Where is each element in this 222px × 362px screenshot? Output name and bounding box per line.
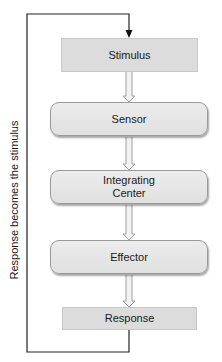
- response-label: Response: [105, 312, 155, 325]
- arrow-sensor-to-integrating-center: [123, 137, 135, 170]
- effector-node: Effector: [50, 240, 208, 274]
- sensor-node: Sensor: [50, 102, 208, 136]
- arrow-stimulus-to-sensor: [123, 72, 135, 102]
- feedback-arrowhead-icon: [126, 30, 133, 38]
- arrow-integrating-center-to-effector: [123, 205, 135, 240]
- response-node: Response: [62, 307, 197, 330]
- integrating-center-node: Integrating Center: [50, 170, 208, 204]
- effector-label: Effector: [110, 251, 148, 264]
- arrow-effector-to-response: [123, 275, 135, 307]
- sensor-label: Sensor: [112, 113, 147, 126]
- feedback-label: Response becomes the stimulus: [7, 100, 21, 300]
- stimulus-node: Stimulus: [61, 38, 198, 72]
- stimulus-label: Stimulus: [108, 49, 150, 62]
- integrating-center-label: Integrating Center: [103, 174, 155, 200]
- negative-feedback-diagram: Stimulus Sensor Integrating Center Effec…: [0, 0, 222, 362]
